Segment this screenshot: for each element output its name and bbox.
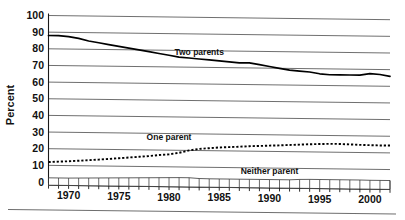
y-tick-label-50: 50	[32, 92, 44, 104]
x-tick-label-1995: 1995	[308, 193, 332, 205]
y-tick-label-90: 90	[32, 26, 44, 38]
x-tick-label-1985: 1985	[208, 191, 232, 203]
x-tick-label-2000: 2000	[358, 193, 382, 205]
y-tick-label-100: 100	[26, 9, 44, 21]
y-tick-label-60: 60	[32, 76, 44, 88]
y-tick-label-80: 80	[32, 42, 44, 54]
y-tick-label-10: 10	[32, 159, 44, 171]
series-label-one-parent: One parent	[147, 132, 192, 142]
y-tick-label-40: 40	[32, 109, 44, 121]
series-label-neither-parent: Neither parent	[241, 166, 299, 176]
family-structure-line-chart: 0102030405060708090100 19701975198019851…	[0, 0, 405, 220]
x-tick-label-1975: 1975	[107, 190, 131, 202]
chart-figure: 0102030405060708090100 19701975198019851…	[0, 0, 405, 220]
x-tick-label-1980: 1980	[157, 191, 181, 203]
y-axis-title: Percent	[4, 84, 16, 125]
y-tick-label-20: 20	[32, 142, 44, 154]
x-tick-label-1990: 1990	[258, 192, 282, 204]
series-label-two-parents: Two parents	[174, 47, 224, 57]
y-tick-label-0: 0	[38, 176, 44, 188]
x-tick-label-1970: 1970	[57, 189, 81, 201]
y-tick-label-70: 70	[32, 59, 44, 71]
y-tick-label-30: 30	[32, 126, 44, 138]
